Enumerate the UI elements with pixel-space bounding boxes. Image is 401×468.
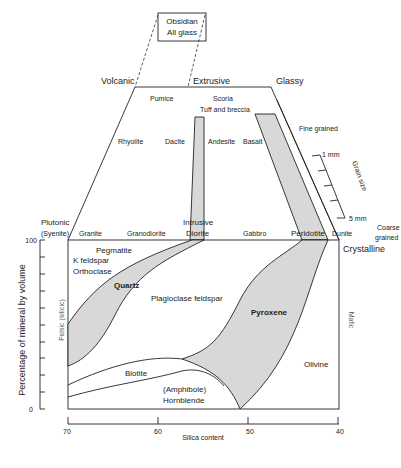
plutonic-label: Plutonic bbox=[41, 218, 69, 227]
y-axis-label: Percentage of mineral by volume bbox=[17, 264, 27, 396]
pumice-label: Pumice bbox=[150, 95, 173, 102]
x-axis-label: Silica content bbox=[182, 434, 224, 441]
obsidian-dash-left bbox=[135, 15, 158, 87]
pegmatite-label: Pegmatite bbox=[96, 246, 133, 255]
grain-size-label: Grain size bbox=[351, 160, 368, 192]
granodiorite-label: Granodiorite bbox=[127, 230, 166, 237]
extrusive-label: Extrusive bbox=[193, 76, 230, 86]
orthoclase-label: Orthoclase bbox=[73, 267, 112, 276]
all-glass-label: All glass bbox=[167, 28, 197, 37]
k-feldspar-label: K feldspar bbox=[73, 256, 109, 265]
tick-1mm bbox=[312, 155, 320, 156]
rhyolite-label: Rhyolite bbox=[118, 138, 143, 146]
peridotite-label: Peridotite bbox=[291, 229, 325, 238]
x-ticks bbox=[68, 417, 338, 424]
tuff-breccia-label: Tuff and breccia bbox=[200, 106, 250, 113]
gabbro-label: Gabbro bbox=[243, 230, 266, 237]
5mm-label: 5 mm bbox=[349, 215, 367, 222]
crystalline-label: Crystalline bbox=[343, 244, 385, 254]
diorite-label: Diorite bbox=[186, 229, 210, 238]
fine-grained-label: Fine grained bbox=[299, 125, 338, 133]
intrusive-label: Intrusive bbox=[183, 218, 214, 227]
y-ticks bbox=[40, 240, 45, 409]
coarse-label: Coarse bbox=[377, 224, 400, 231]
grain-scale-axis bbox=[320, 155, 345, 218]
dunite-label: Dunite bbox=[332, 230, 352, 237]
andesite-label: Andesite bbox=[208, 138, 235, 145]
syenite-label: (Syenite) bbox=[41, 230, 69, 238]
x-tick-70: 70 bbox=[63, 428, 71, 435]
x-tick-60: 60 bbox=[154, 428, 162, 435]
biotite-label: Biotite bbox=[125, 369, 148, 378]
volcanic-label: Volcanic bbox=[101, 76, 135, 86]
tick bbox=[318, 170, 326, 171]
felsic-label: Felsic (silicic) bbox=[58, 299, 66, 341]
quartz-label: Quartz bbox=[114, 281, 139, 290]
pyroxene-label: Pyroxene bbox=[251, 308, 288, 317]
olivine-label: Olivine bbox=[304, 360, 329, 369]
amphibole-label: (Amphibole) bbox=[163, 385, 206, 394]
glassy-label: Glassy bbox=[276, 76, 304, 86]
pyroxene-band bbox=[182, 240, 328, 409]
granite-label: Granite bbox=[79, 230, 102, 237]
plagioclase-label: Plagioclase feldspar bbox=[151, 294, 223, 303]
obsidian-label: Obsidian bbox=[166, 17, 198, 26]
tick bbox=[324, 185, 332, 186]
y-tick-100: 100 bbox=[25, 237, 37, 244]
dacite-label: Dacite bbox=[165, 138, 185, 145]
x-tick-50: 50 bbox=[246, 428, 254, 435]
x-tick-40: 40 bbox=[336, 428, 344, 435]
grained-label: grained bbox=[375, 234, 398, 242]
scoria-label: Scoria bbox=[213, 95, 233, 102]
y-tick-0: 0 bbox=[29, 406, 33, 413]
igneous-rock-classification-diagram: Obsidian All glass Volcanic Extrusive Gl… bbox=[0, 0, 401, 468]
hornblende-label: Hornblende bbox=[163, 396, 205, 405]
1mm-label: 1 mm bbox=[322, 151, 340, 158]
basalt-label: Basalt bbox=[243, 138, 263, 145]
mafic-label: Mafic bbox=[348, 312, 355, 329]
tick bbox=[330, 200, 338, 201]
